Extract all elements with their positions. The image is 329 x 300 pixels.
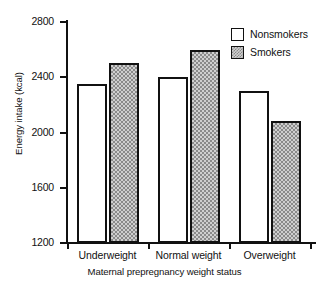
bar-underweight-nonsmokers <box>77 84 107 243</box>
legend-label-smokers: Smokers <box>250 47 291 58</box>
legend-item-nonsmokers[interactable]: Nonsmokers <box>231 28 308 41</box>
legend-swatch-nonsmokers-icon <box>231 28 244 41</box>
legend-label-nonsmokers: Nonsmokers <box>250 29 308 40</box>
bar-overweight-nonsmokers <box>239 91 269 243</box>
chart-legend: Nonsmokers Smokers <box>231 28 308 64</box>
y-axis-title: Energy intake (kcal) <box>13 39 24 189</box>
y-tick-label: 1200 <box>18 237 54 247</box>
y-tick-mark <box>60 132 67 134</box>
x-category-label: Overweight <box>223 249 316 262</box>
y-tick-mark <box>60 242 67 244</box>
legend-swatch-smokers-icon <box>231 46 244 59</box>
y-tick-label: 2800 <box>18 16 54 26</box>
x-axis-title: Maternal prepregnancy weight status <box>0 266 329 277</box>
legend-item-smokers[interactable]: Smokers <box>231 46 308 59</box>
energy-intake-bar-chart: 12001600200024002800 UnderweightNormal w… <box>0 0 329 300</box>
bar-normal-weight-nonsmokers <box>158 77 188 243</box>
x-category-label: Underweight <box>61 249 154 262</box>
bar-underweight-smokers <box>109 63 139 243</box>
y-tick-mark <box>60 76 67 78</box>
bar-overweight-smokers <box>271 121 301 243</box>
y-tick-mark <box>60 187 67 189</box>
y-tick-mark <box>60 21 67 23</box>
x-category-label: Normal weight <box>142 249 235 262</box>
bar-normal-weight-smokers <box>190 50 220 243</box>
